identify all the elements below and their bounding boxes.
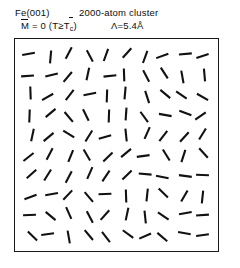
spin-vector <box>139 173 152 174</box>
spin-vector <box>125 87 126 100</box>
m-letter: M <box>21 20 29 31</box>
spin-vector <box>63 190 72 199</box>
spin-vector <box>126 208 129 221</box>
overbar <box>21 19 28 20</box>
magnetization-value: = 0 (T≥T <box>29 20 70 31</box>
spin-vector <box>123 48 132 58</box>
spin-vector <box>84 149 90 160</box>
spin-vector <box>196 234 209 236</box>
spin-vector <box>137 155 150 157</box>
spin-vector <box>121 149 131 157</box>
spin-vector <box>23 153 33 161</box>
spin-vector <box>159 114 172 116</box>
spin-vector <box>85 230 93 240</box>
spin-vector <box>139 233 151 238</box>
spin-configuration-figure: Fe(001) 2000-atom cluster M = 0 (T≥Tc) Λ… <box>0 0 240 268</box>
spin-vector <box>179 53 192 54</box>
spin-vector <box>22 53 35 55</box>
spin-vector <box>87 211 93 222</box>
spin-vector <box>68 231 70 244</box>
spin-vector <box>103 153 112 162</box>
spin-vector <box>179 175 192 177</box>
spin-vector <box>204 69 205 82</box>
spin-vector <box>44 170 51 181</box>
spin-vector <box>104 75 117 76</box>
spin-vector <box>28 232 37 241</box>
spin-vector <box>181 190 187 201</box>
spin-vector <box>163 150 170 161</box>
spin-vector <box>195 112 206 119</box>
spin-vector <box>104 49 108 61</box>
spin-vector <box>143 51 147 63</box>
spin-vector <box>66 171 72 182</box>
spin-vector <box>179 212 192 214</box>
spin-vector <box>31 129 34 142</box>
spin-vector <box>181 71 183 84</box>
spin-vector <box>179 111 191 115</box>
spin-vector <box>41 233 54 235</box>
spin-vector <box>21 76 34 77</box>
spin-vector <box>161 68 168 79</box>
cluster-size-label: 2000-atom cluster <box>79 7 158 18</box>
spin-vector <box>46 212 56 220</box>
spin-vector <box>159 131 167 141</box>
spin-vector <box>125 129 126 142</box>
spin-vector <box>27 170 37 179</box>
m-bar-symbol: M <box>21 20 29 31</box>
spin-vector <box>145 91 149 103</box>
curie-sub-letter: c <box>70 25 74 32</box>
spin-vector <box>66 47 72 58</box>
spin-vector <box>50 51 51 64</box>
lambda-label: Λ=5.4Å <box>111 20 144 31</box>
spin-vector <box>99 135 111 139</box>
spin-vector <box>68 150 73 162</box>
spin-vector <box>199 148 208 158</box>
magnetization-label: M = 0 (T≥Tc) <box>21 20 77 34</box>
spin-vector <box>101 210 110 220</box>
spin-vector <box>199 129 206 140</box>
spin-vector <box>181 150 185 162</box>
magnetization-paren: ) <box>73 20 76 31</box>
spin-vector <box>42 94 53 100</box>
spin-vector <box>140 112 148 122</box>
spin-vector <box>123 230 133 238</box>
spin-vector <box>84 93 97 96</box>
spin-vector <box>102 232 110 242</box>
spin-vector <box>196 215 209 216</box>
curie-subscript: c <box>70 25 74 32</box>
tc-overbar <box>69 17 73 18</box>
spin-vector <box>160 90 170 98</box>
spin-vector <box>63 131 74 138</box>
spin-vector-field <box>15 39 218 251</box>
spin-vector <box>157 233 167 241</box>
spin-vector <box>87 167 92 179</box>
spin-vector <box>66 90 74 100</box>
material-label: Fe(001) <box>15 7 50 18</box>
spin-vector <box>65 112 73 122</box>
spin-vector <box>146 189 147 202</box>
spin-vector <box>45 73 57 76</box>
spin-vector <box>144 211 145 224</box>
spin-vector <box>156 54 168 58</box>
spin-vector <box>156 176 169 179</box>
spin-vector <box>87 50 93 61</box>
spin-vector <box>196 54 208 58</box>
spin-vector <box>197 94 208 100</box>
spin-vector <box>64 72 72 82</box>
spin-vector <box>85 131 92 142</box>
spin-vector <box>24 195 36 199</box>
spin-vector <box>122 171 131 180</box>
spin-field-plot-frame <box>14 38 219 252</box>
spin-vector <box>176 91 187 98</box>
spin-vector <box>47 148 53 159</box>
spin-vector <box>85 192 93 202</box>
spin-vector <box>45 193 58 195</box>
spin-vector <box>158 212 169 219</box>
spin-vector <box>202 191 203 204</box>
spin-vector <box>86 68 89 81</box>
spin-vector <box>126 108 127 121</box>
spin-vector <box>143 70 149 81</box>
figure-header: Fe(001) 2000-atom cluster M = 0 (T≥Tc) Λ… <box>0 0 240 36</box>
spin-vector <box>145 127 150 139</box>
spin-vector <box>102 171 109 182</box>
